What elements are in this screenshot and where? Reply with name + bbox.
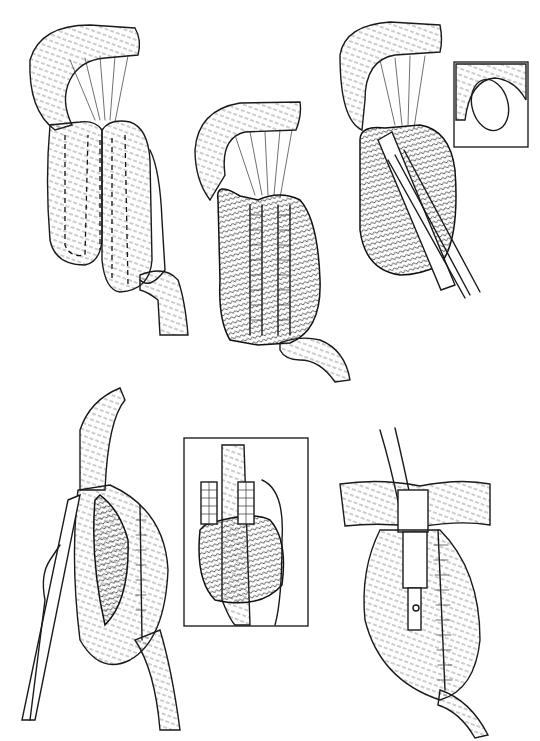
panel-step-5-inset [184, 438, 308, 626]
panel-step-4 [22, 388, 180, 730]
panel-step-6 [340, 428, 490, 738]
surgical-illustration [0, 0, 540, 741]
panel-step-1 [30, 25, 188, 335]
panel-step-3 [340, 22, 528, 298]
panel-step-2 [195, 102, 350, 382]
